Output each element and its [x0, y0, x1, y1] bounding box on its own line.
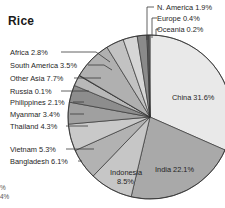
top-right-callout-labels-group: N. America 1.9%Europe 0.4%Oceania 0.2%: [157, 3, 212, 34]
callout-label-left: Russia 0.1%: [10, 87, 52, 96]
slice-label-inside: 8.5%: [117, 177, 134, 186]
slice-label-inside: Indonesia: [110, 168, 143, 177]
rice-pie-chart-figure: Rice China 31.6%India 22.1%Indonesia8.5%…: [0, 0, 225, 208]
callout-label-left: Bangladesh 6.1%: [10, 157, 68, 166]
callout-label-left: Myanmar 3.4%: [10, 110, 60, 119]
callout-label-top-right: N. America 1.9%: [157, 3, 212, 12]
callout-label-left: Africa 2.8%: [10, 48, 48, 57]
callout-label-top-right: Oceania 0.2%: [157, 25, 204, 34]
pie-chart-canvas: Rice China 31.6%India 22.1%Indonesia8.5%…: [0, 0, 225, 208]
pie-slices-group: [68, 35, 225, 199]
edge-fragment-2: 4%: [0, 193, 10, 200]
callout-label-left: South America 3.5%: [10, 61, 77, 70]
left-callout-labels-group: Africa 2.8%South America 3.5%Other Asia …: [10, 48, 77, 166]
slice-label-inside: China 31.6%: [172, 93, 215, 102]
callout-label-left: Thailand 4.3%: [10, 122, 58, 131]
callout-label-left: Other Asia 7.7%: [10, 74, 64, 83]
callout-label-left: Philippines 2.1%: [10, 98, 65, 107]
callout-label-top-right: Europe 0.4%: [157, 14, 200, 23]
chart-title: Rice: [8, 14, 34, 28]
slice-label-inside: India 22.1%: [155, 165, 194, 174]
edge-fragment-1: %: [0, 184, 6, 191]
callout-label-left: Vietnam 5.3%: [10, 145, 56, 154]
